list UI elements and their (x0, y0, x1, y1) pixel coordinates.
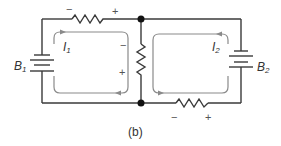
top-resistor-plus: + (112, 5, 118, 17)
junction-node-bottom (138, 100, 145, 107)
top-resistor (72, 15, 106, 23)
middle-resistor (137, 44, 145, 78)
battery-b2-label: B2 (257, 60, 270, 75)
bottom-resistor (176, 99, 208, 107)
bottom-resistor-minus: − (171, 111, 177, 123)
battery-b1 (30, 55, 54, 71)
junction-node-top (138, 16, 145, 23)
current-loop-i2 (153, 32, 228, 96)
current-i2-label: I2 (212, 40, 220, 55)
battery-b2 (229, 51, 253, 67)
bottom-resistor-plus: + (205, 111, 211, 123)
battery-b1-label: B1 (14, 59, 26, 74)
loop-arrow-icon (115, 91, 121, 96)
loop-arrow-icon (60, 30, 66, 35)
top-resistor-minus: − (66, 3, 72, 15)
loop-arrow-icon (216, 32, 222, 37)
loop-arrow-icon (158, 91, 164, 96)
current-i1-label: I1 (63, 40, 71, 55)
figure-caption: (b) (128, 125, 143, 139)
middle-resistor-minus: − (120, 39, 126, 51)
circuit-diagram: − + − + − + B1 B2 I1 I2 (b) (0, 0, 281, 146)
middle-resistor-plus: + (119, 66, 125, 78)
